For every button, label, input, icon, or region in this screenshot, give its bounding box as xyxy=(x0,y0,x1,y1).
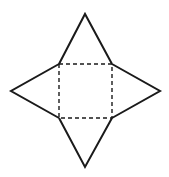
background xyxy=(0,0,169,177)
square-pyramid-net xyxy=(0,0,169,177)
